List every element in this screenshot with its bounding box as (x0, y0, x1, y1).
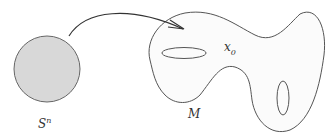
basepoint-label-base: x (224, 40, 231, 54)
manifold-outline (149, 12, 325, 132)
sphere-label-base: S (38, 117, 46, 131)
basepoint-label-sub: 0 (231, 48, 236, 57)
manifold-label: M (188, 108, 200, 120)
sphere-label-sup: n (46, 116, 51, 125)
manifold-label-text: M (188, 107, 200, 121)
sphere-disk (14, 36, 80, 102)
basepoint-label: x0 (224, 41, 236, 56)
sphere-label: Sn (38, 117, 51, 130)
